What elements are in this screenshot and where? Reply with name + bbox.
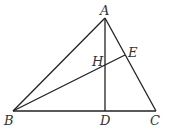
segment-AC (105, 18, 156, 111)
segment-BE (13, 55, 125, 111)
label-B: B (3, 113, 14, 128)
label-A: A (99, 3, 109, 18)
triangle-diagram: A B C D E H (0, 0, 171, 132)
label-C: C (150, 113, 160, 128)
label-D: D (99, 113, 111, 128)
label-H: H (91, 54, 104, 69)
label-E: E (127, 45, 138, 60)
